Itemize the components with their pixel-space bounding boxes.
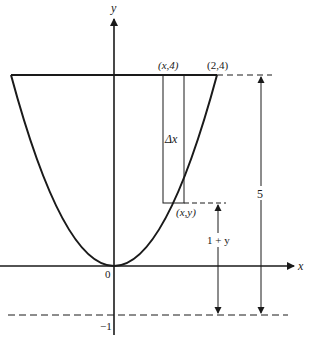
point-label-24: (2,4) [207, 59, 228, 72]
origin-label: 0 [105, 268, 111, 280]
dimension-label-1-plus-y: 1 + y [207, 234, 230, 246]
parabola-diagram: x y 0 −1 (x,4) (2,4) (x,y) Δx 5 [0, 0, 310, 347]
neg-one-label: −1 [100, 320, 112, 332]
delta-x-label: Δx [164, 132, 178, 146]
point-label-xy: (x,y) [176, 206, 196, 219]
dimension-label-5: 5 [257, 187, 263, 201]
y-axis-label: y [110, 1, 117, 15]
point-label-x4: (x,4) [158, 59, 179, 72]
x-axis-label: x [297, 259, 304, 273]
